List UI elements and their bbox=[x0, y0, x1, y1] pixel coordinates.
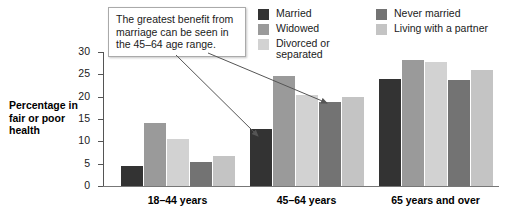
legend-swatch-divorced-or-separated bbox=[258, 39, 269, 50]
y-tick-0: 0 bbox=[98, 186, 103, 187]
legend-label-widowed: Widowed bbox=[276, 23, 319, 34]
y-tick-label-10: 10 bbox=[70, 134, 90, 146]
bar bbox=[213, 156, 235, 186]
y-tick-5: 5 bbox=[98, 164, 103, 165]
y-tick-label-20: 20 bbox=[70, 90, 90, 102]
bar bbox=[402, 60, 424, 186]
bar-group bbox=[121, 52, 236, 186]
y-tick-10: 10 bbox=[98, 141, 103, 142]
y-tick-20: 20 bbox=[98, 97, 103, 98]
legend-label-married: Married bbox=[276, 8, 312, 19]
plot-area: 051015202530 18–44 years45–64 years65 ye… bbox=[103, 52, 499, 187]
bar bbox=[144, 123, 166, 186]
legend-swatch-married bbox=[258, 9, 269, 20]
x-axis-label: 45–64 years bbox=[237, 194, 377, 206]
legend-column-right: Never married Living with a partner bbox=[376, 8, 516, 38]
y-tick-label-15: 15 bbox=[70, 112, 90, 124]
y-tick-label-30: 30 bbox=[70, 45, 90, 57]
y-tick-15: 15 bbox=[98, 119, 103, 120]
legend-label-never-married: Never married bbox=[394, 8, 461, 19]
chart-figure: Married Widowed Divorced or separated Ne… bbox=[0, 0, 516, 224]
legend-item-married: Married bbox=[258, 8, 368, 20]
bars-layer bbox=[104, 52, 499, 186]
legend-item-living-with-a-partner: Living with a partner bbox=[376, 23, 516, 35]
bar-group bbox=[250, 52, 365, 186]
y-tick-label-5: 5 bbox=[70, 157, 90, 169]
x-axis-line bbox=[103, 186, 499, 187]
callout-annotation: The greatest benefit from marriage can b… bbox=[108, 7, 246, 57]
bar bbox=[167, 139, 189, 186]
legend-item-widowed: Widowed bbox=[258, 23, 368, 35]
bar bbox=[121, 166, 143, 186]
legend-label-living-with-a-partner: Living with a partner bbox=[394, 23, 488, 34]
bar bbox=[425, 62, 447, 186]
legend-item-never-married: Never married bbox=[376, 8, 516, 20]
x-axis-label: 65 years and over bbox=[366, 194, 506, 206]
y-tick-30: 30 bbox=[98, 52, 103, 53]
bar-group bbox=[379, 52, 494, 186]
x-axis-label: 18–44 years bbox=[108, 194, 248, 206]
y-tick-label-0: 0 bbox=[70, 179, 90, 191]
bar bbox=[190, 162, 212, 186]
bar bbox=[250, 129, 272, 186]
bar bbox=[471, 70, 493, 186]
bar bbox=[319, 102, 341, 186]
bar bbox=[379, 79, 401, 186]
legend-swatch-living-with-a-partner bbox=[376, 24, 387, 35]
y-tick-25: 25 bbox=[98, 74, 103, 75]
bar bbox=[296, 95, 318, 186]
bar bbox=[342, 97, 364, 186]
legend-swatch-widowed bbox=[258, 24, 269, 35]
bar bbox=[273, 76, 295, 186]
bar bbox=[448, 80, 470, 186]
y-tick-label-25: 25 bbox=[70, 67, 90, 79]
legend-swatch-never-married bbox=[376, 9, 387, 20]
